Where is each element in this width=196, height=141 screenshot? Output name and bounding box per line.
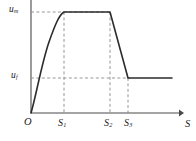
- x-axis-tick-label-s2: S2: [104, 118, 112, 128]
- x-axis-tick-label-s3: S3: [124, 118, 132, 128]
- x-tick-s1-sub: 1: [63, 121, 66, 128]
- y-axis-label-um: um: [9, 5, 18, 15]
- x-axis-title: S: [185, 119, 190, 130]
- y-axis-label-uf: uf: [11, 71, 18, 81]
- x-tick-s3-sub: 3: [129, 121, 132, 128]
- x-tick-s2-sub: 2: [109, 121, 112, 128]
- y-axis-label-uf-sub: f: [16, 74, 18, 80]
- y-axis-label-um-sub: m: [14, 8, 18, 14]
- origin-label: O: [24, 117, 32, 128]
- x-axis-arrow-icon: [179, 110, 184, 117]
- figure-container: um uf O S1 S2 S3 S: [0, 0, 196, 141]
- data-curve: [31, 12, 172, 113]
- x-axis-tick-label-s1: S1: [58, 118, 66, 128]
